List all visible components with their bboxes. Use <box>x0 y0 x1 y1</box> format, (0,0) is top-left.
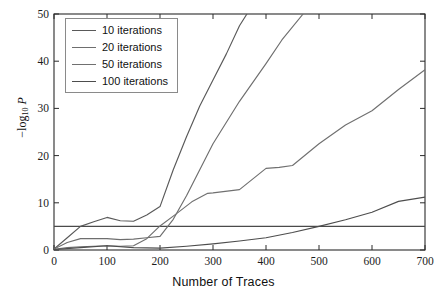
legend-line-swatch <box>72 30 96 31</box>
legend-item[interactable]: 100 iterations <box>70 73 173 90</box>
legend-item-label: 100 iterations <box>102 76 168 87</box>
x-tick-label: 400 <box>257 255 274 267</box>
chart-legend: 10 iterations 20 iterations 50 iteration… <box>65 18 178 93</box>
y-tick-label: 40 <box>24 55 49 67</box>
legend-item[interactable]: 10 iterations <box>70 22 173 39</box>
legend-item-label: 10 iterations <box>102 25 162 36</box>
legend-item[interactable]: 50 iterations <box>70 56 173 73</box>
x-tick-label: 200 <box>151 255 168 267</box>
x-tick-label: 700 <box>416 255 433 267</box>
y-tick-label: 50 <box>24 8 49 20</box>
x-tick-label: 500 <box>310 255 327 267</box>
x-tick-label: 0 <box>51 255 57 267</box>
legend-line-swatch <box>72 47 96 48</box>
legend-item-label: 50 iterations <box>102 59 162 70</box>
x-tick-label: 600 <box>363 255 380 267</box>
legend-item[interactable]: 20 iterations <box>70 39 173 56</box>
x-axis-label: Number of Traces <box>0 275 447 289</box>
y-tick-label: 0 <box>24 244 49 256</box>
series-line-3 <box>54 70 425 250</box>
legend-line-swatch <box>72 64 96 65</box>
y-tick-label: 20 <box>24 150 49 162</box>
x-tick-label: 100 <box>98 255 115 267</box>
y-tick-label: 30 <box>24 102 49 114</box>
series-line-4 <box>54 197 425 249</box>
chart-figure: −log10 P Number of Traces 10 iterations … <box>0 0 447 298</box>
y-tick-label: 10 <box>24 197 49 209</box>
y-axis-label-log: log <box>15 116 29 131</box>
y-axis-label-minus: − <box>15 131 29 138</box>
x-tick-label: 300 <box>204 255 221 267</box>
legend-item-label: 20 iterations <box>102 42 162 53</box>
legend-line-swatch <box>72 81 96 82</box>
